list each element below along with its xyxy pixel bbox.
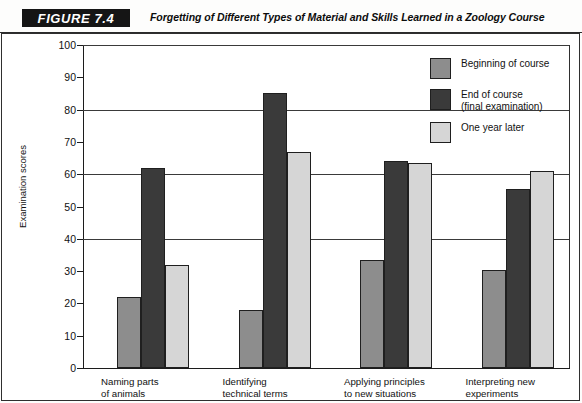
chart-legend: Beginning of courseEnd of course (final … <box>430 57 578 152</box>
y-tick-label-70: 70 <box>64 136 76 148</box>
legend-label: One year later <box>461 121 524 134</box>
legend-label: Beginning of course <box>461 57 549 70</box>
x-axis-line <box>83 368 570 369</box>
bar <box>530 171 554 368</box>
y-tick-label-20: 20 <box>64 297 76 309</box>
y-tick-mark-50 <box>77 207 83 208</box>
x-axis-label-3: Applying principles to new situations <box>344 376 456 399</box>
y-tick-mark-0 <box>77 368 83 369</box>
x-axis-label-2: Identifying technical terms <box>223 376 335 399</box>
figure-header: FIGURE 7.4 Forgetting of Different Types… <box>0 0 582 33</box>
y-tick-mark-40 <box>77 239 83 240</box>
legend-swatch <box>430 122 451 143</box>
bar <box>117 297 141 368</box>
y-tick-mark-80 <box>77 110 83 111</box>
x-axis-label-1: Naming parts of animals <box>101 376 213 399</box>
legend-item: One year later <box>430 121 578 143</box>
y-tick-label-90: 90 <box>64 71 76 83</box>
y-tick-label-80: 80 <box>64 104 76 116</box>
bar-chart: Examination scores 010203040506070809010… <box>0 33 582 403</box>
bar <box>239 310 263 368</box>
y-tick-label-50: 50 <box>64 201 76 213</box>
bar <box>165 265 189 368</box>
x-axis-label-4: Interpreting new experiments <box>466 376 578 399</box>
y-tick-label-0: 0 <box>70 362 76 374</box>
y-tick-mark-10 <box>77 336 83 337</box>
bar <box>287 152 311 368</box>
legend-swatch <box>430 89 451 110</box>
bar <box>384 161 408 368</box>
legend-label: End of course (final examination) <box>461 88 543 112</box>
bar <box>263 93 287 368</box>
y-tick-mark-20 <box>77 303 83 304</box>
bar <box>360 260 384 368</box>
bar <box>141 168 165 368</box>
y-tick-mark-30 <box>77 271 83 272</box>
y-axis-title: Examination scores <box>17 137 28 237</box>
y-tick-label-60: 60 <box>64 168 76 180</box>
figure-title: Forgetting of Different Types of Materia… <box>150 10 570 24</box>
y-axis-line <box>83 45 84 369</box>
bar <box>506 189 530 368</box>
gridline-100 <box>83 45 569 46</box>
bar <box>408 163 432 368</box>
y-tick-label-30: 30 <box>64 265 76 277</box>
y-tick-label-100: 100 <box>58 39 76 51</box>
y-tick-mark-100 <box>77 45 83 46</box>
legend-item: End of course (final examination) <box>430 88 578 112</box>
y-tick-mark-70 <box>77 142 83 143</box>
y-tick-label-10: 10 <box>64 330 76 342</box>
y-tick-label-40: 40 <box>64 233 76 245</box>
legend-item: Beginning of course <box>430 57 578 79</box>
y-tick-mark-60 <box>77 174 83 175</box>
y-tick-mark-90 <box>77 77 83 78</box>
bar <box>482 270 506 369</box>
legend-swatch <box>430 58 451 79</box>
figure-number-badge: FIGURE 7.4 <box>22 9 130 27</box>
